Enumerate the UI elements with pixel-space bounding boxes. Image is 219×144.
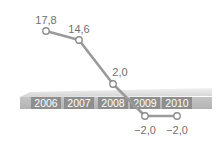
- category-label: 2010: [165, 97, 189, 109]
- data-point-marker: [76, 37, 82, 43]
- data-point-marker: [142, 113, 148, 119]
- data-value-label: −2,0: [166, 124, 188, 136]
- data-value-label: 17,8: [35, 14, 56, 26]
- category-label: 2008: [101, 97, 125, 109]
- category-tab-2007: 2007: [64, 97, 94, 110]
- category-label: 2007: [67, 97, 91, 109]
- data-point-marker: [43, 28, 49, 34]
- data-labels: 17,814,62,0−2,0−2,0: [35, 14, 188, 136]
- x-axis-categories: 20062007200820092010: [31, 97, 192, 110]
- data-value-label: 2,0: [112, 66, 127, 78]
- category-tab-2006: 2006: [31, 97, 61, 110]
- category-label: 2006: [34, 97, 58, 109]
- data-value-label: 14,6: [68, 23, 89, 35]
- category-tab-2010: 2010: [162, 97, 192, 110]
- data-value-label: −2,0: [134, 124, 156, 136]
- data-point-marker: [110, 81, 116, 87]
- line-chart: 20062007200820092010 17,814,62,0−2,0−2,0: [0, 0, 219, 144]
- category-tab-2008: 2008: [98, 97, 128, 110]
- data-point-marker: [174, 113, 180, 119]
